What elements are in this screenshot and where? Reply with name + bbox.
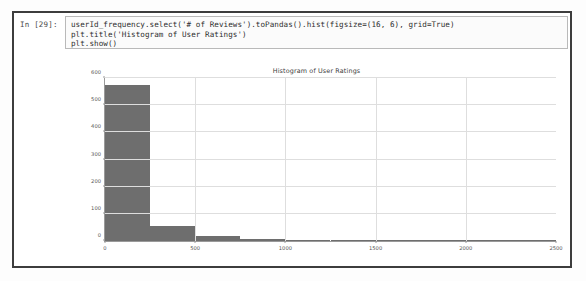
y-tick-label: 300: [91, 151, 105, 157]
code-input-area[interactable]: userId_frequency.select('# of Reviews').…: [65, 16, 568, 49]
x-tick-label: 2500: [549, 241, 562, 251]
histogram-bar: [195, 236, 240, 241]
gridline-horizontal: [105, 159, 556, 160]
x-tick-label: 500: [190, 241, 200, 251]
histogram-bars: [105, 78, 556, 241]
cell-prompt-label: In [29]:: [20, 20, 58, 29]
notebook-cell[interactable]: In [29]: userId_frequency.select('# of R…: [12, 11, 572, 268]
code-line-1: userId_frequency.select('# of Reviews').…: [71, 20, 563, 30]
gridline-horizontal: [105, 186, 556, 187]
y-tick-label: 100: [91, 205, 105, 211]
y-tick-mark: [103, 131, 105, 132]
figure-output: Histogram of User Ratings 01002003004005…: [65, 53, 568, 265]
code-line-2: plt.title('Histogram of User Ratings'): [71, 30, 563, 40]
y-tick-label: 600: [91, 69, 105, 75]
x-tick-label: 2000: [459, 241, 472, 251]
histogram-bar: [466, 240, 511, 241]
gridline-vertical: [466, 78, 467, 241]
gridline-horizontal: [105, 213, 556, 214]
y-tick-mark: [103, 77, 105, 78]
x-tick-label: 0: [103, 241, 106, 251]
gridline-horizontal: [105, 131, 556, 132]
y-tick-mark: [103, 104, 105, 105]
y-tick-label: 0: [98, 232, 105, 238]
histogram-bar: [105, 85, 150, 241]
y-tick-mark: [103, 185, 105, 186]
histogram-bar: [285, 240, 330, 241]
y-tick-mark: [103, 212, 105, 213]
x-tick-label: 1000: [279, 241, 292, 251]
plot-area: 010020030040050060005001000150020002500: [104, 78, 556, 242]
histogram-bar: [150, 226, 195, 241]
gridline-vertical: [285, 78, 286, 241]
chart-title: Histogram of User Ratings: [65, 67, 568, 75]
y-tick-label: 200: [91, 178, 105, 184]
y-tick-label: 400: [91, 123, 105, 129]
gridline-vertical: [376, 78, 377, 241]
code-line-3: plt.show(): [71, 39, 563, 49]
y-tick-label: 500: [91, 96, 105, 102]
gridline-vertical: [195, 78, 196, 241]
gridline-horizontal: [105, 104, 556, 105]
screenshot-root: In [29]: userId_frequency.select('# of R…: [0, 0, 586, 281]
histogram-bar: [376, 240, 421, 241]
y-tick-mark: [103, 158, 105, 159]
x-tick-label: 1500: [369, 241, 382, 251]
gridline-horizontal: [105, 77, 556, 78]
